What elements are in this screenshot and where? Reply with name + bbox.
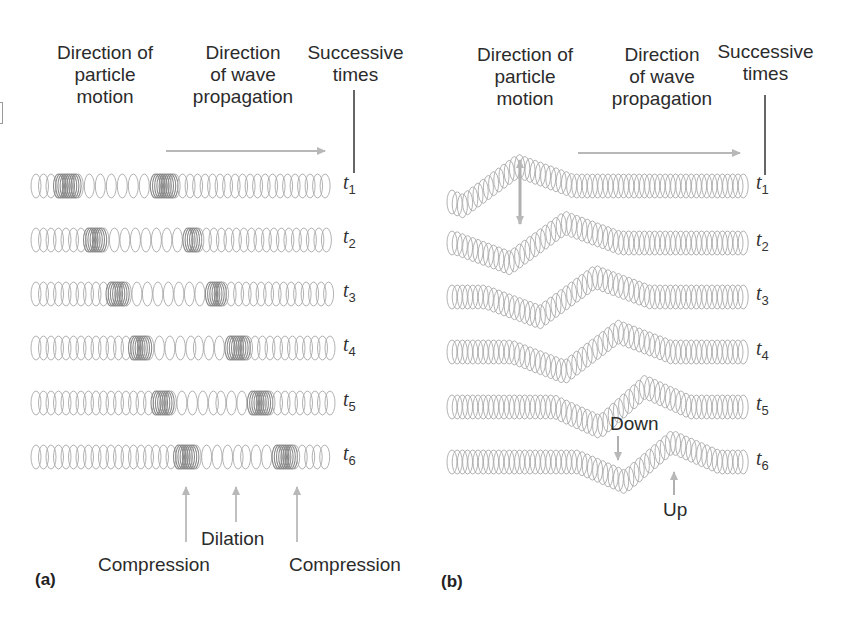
time-label-t6: t6 (343, 442, 356, 468)
time-label-t1: t1 (343, 171, 356, 197)
panel-b-tag: (b) (441, 572, 463, 592)
time-label-t6: t6 (756, 447, 769, 473)
time-label-t5: t5 (756, 392, 769, 418)
transverse-spring-row (447, 212, 748, 275)
transverse-spring-row (447, 155, 748, 218)
time-label-t1: t1 (756, 171, 769, 197)
panel-b-springs (447, 155, 748, 494)
time-label-t5: t5 (343, 388, 356, 414)
panel-b-successive-times-label: Successive times (708, 41, 823, 85)
transverse-spring-row (447, 320, 748, 383)
time-label-t3: t3 (343, 279, 356, 305)
time-label-t2: t2 (756, 228, 769, 254)
transverse-spring-row (447, 266, 748, 329)
panel-a-tag: (a) (35, 570, 56, 590)
time-label-t4: t4 (343, 333, 356, 359)
panel-a-successive-times-label: Successive times (298, 42, 413, 86)
time-label-t4: t4 (756, 337, 769, 363)
arrows-layer (166, 90, 765, 542)
compression-right-label: Compression (289, 554, 401, 576)
page-edge-bracket (0, 102, 3, 124)
longitudinal-spring-row (31, 174, 330, 198)
panel-a-wave-propagation-label: Direction of wave propagation (178, 42, 308, 108)
transverse-spring-row (447, 431, 748, 493)
longitudinal-spring-row (31, 445, 330, 469)
longitudinal-spring-row (31, 391, 335, 415)
time-label-t2: t2 (343, 225, 356, 251)
panel-b-particle-motion-label: Direction of particle motion (460, 44, 590, 110)
panel-a-springs (31, 174, 335, 469)
dilation-label: Dilation (201, 528, 264, 550)
down-label: Down (610, 413, 659, 435)
longitudinal-spring-row (31, 282, 334, 306)
longitudinal-spring-row (31, 228, 331, 252)
panel-a-particle-motion-label: Direction of particle motion (40, 42, 170, 108)
time-label-t3: t3 (756, 282, 769, 308)
compression-left-label: Compression (98, 554, 210, 576)
longitudinal-spring-row (31, 336, 335, 360)
up-label: Up (663, 499, 687, 521)
transverse-spring-row (447, 376, 748, 438)
